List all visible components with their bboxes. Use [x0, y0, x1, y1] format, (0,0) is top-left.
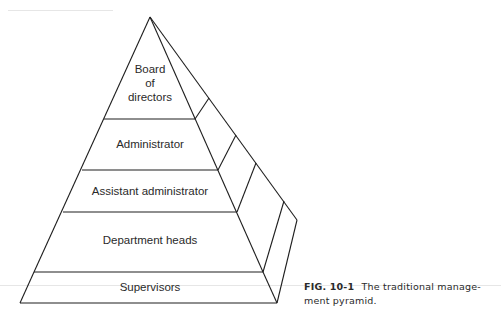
caption-text-1: The traditional manage- [362, 281, 481, 292]
label-line: of [110, 76, 190, 90]
level-board-of-directors: Board of directors [110, 62, 190, 104]
caption-line-2: ment pyramid. [304, 294, 494, 308]
front-left-edge-base [20, 272, 34, 303]
side-connector-3 [237, 163, 256, 212]
figure-page: Board of directors Administrator Assista… [0, 0, 501, 328]
level-administrator: Administrator [90, 137, 210, 151]
caption-line-1: FIG. 10-1 The traditional manage- [304, 280, 494, 294]
level-assistant-administrator: Assistant administrator [70, 184, 230, 198]
figure-caption: FIG. 10-1 The traditional manage- ment p… [304, 280, 494, 308]
side-connector-1 [195, 98, 209, 119]
side-connector-4 [263, 201, 284, 272]
label-line: directors [110, 90, 190, 104]
pyramid-diagram [0, 0, 501, 328]
figure-number: FIG. 10-1 [304, 281, 354, 292]
front-right-edge-base [263, 272, 277, 303]
label-line: Board [110, 62, 190, 76]
level-department-heads: Department heads [70, 233, 230, 247]
side-connector-2 [218, 135, 236, 170]
level-supervisors: Supervisors [90, 280, 210, 294]
back-bottom-edge [277, 220, 297, 303]
